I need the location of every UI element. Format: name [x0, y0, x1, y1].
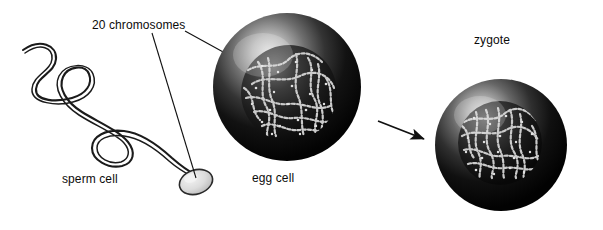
label-egg-cell: egg cell [252, 171, 294, 185]
zygote-highlight [454, 96, 506, 134]
label-sperm-cell: sperm cell [62, 172, 118, 186]
label-20-chromosomes: 20 chromosomes [92, 18, 185, 32]
fertilization-arrow [378, 121, 424, 139]
label-zygote: zygote [474, 33, 510, 47]
fertilization-diagram: 20 chromosomes sperm cell egg cell zygot… [0, 0, 603, 230]
sperm-tail [23, 44, 196, 178]
diagram-canvas [0, 0, 603, 230]
zygote [435, 79, 567, 211]
egg-cell [213, 13, 361, 161]
leader-line-to-sperm [152, 33, 196, 178]
egg-cell-highlight [233, 33, 293, 77]
sperm-cell [23, 44, 216, 199]
